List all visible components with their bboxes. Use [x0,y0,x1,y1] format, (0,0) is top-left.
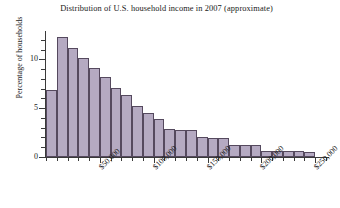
histogram-bar [78,58,89,157]
x-axis-tick-minor [46,157,47,161]
y-axis-tick-minor [41,40,46,41]
y-axis-tick-label: 10 [12,54,38,63]
y-axis-tick-label: 0 [12,152,38,161]
y-axis-tick-label: 5 [12,103,38,112]
histogram-bar [89,68,100,157]
y-axis-tick-major [39,59,46,60]
histogram-bar [100,77,111,157]
y-axis-tick-minor [41,89,46,90]
histogram-bar [251,145,262,157]
x-axis-tick-minor [175,157,176,161]
x-axis-tick-minor [197,157,198,161]
x-axis-tick-minor [304,157,305,161]
x-axis-tick-minor [68,157,69,161]
histogram-bar [197,137,208,157]
histogram-bar [68,48,79,157]
histogram-bar [46,90,57,157]
y-axis-tick-minor [41,147,46,148]
x-axis-tick-minor [121,157,122,161]
y-axis-tick-minor [41,50,46,51]
histogram-bar [294,151,305,157]
histogram-bar [175,130,186,157]
x-axis-tick-minor [251,157,252,161]
y-axis-tick-minor [41,79,46,80]
chart-title: Distribution of U.S. household income in… [0,4,333,13]
y-axis-tick-minor [41,98,46,99]
x-axis-tick-minor [89,157,90,161]
x-axis-tick-minor [78,157,79,161]
y-axis-tick-minor [41,128,46,129]
x-axis-tick-minor [229,157,230,161]
y-axis-tick-minor [41,69,46,70]
y-axis-labels: 0510 [8,0,38,208]
x-axis-tick-minor [283,157,284,161]
histogram-bar [121,95,132,157]
histogram-bar [240,145,251,157]
x-axis-tick-minor [132,157,133,161]
histogram-bar [132,106,143,157]
y-axis-tick-minor [41,137,46,138]
x-axis-tick-minor [294,157,295,161]
x-axis-tick-minor [240,157,241,161]
x-axis-tick-minor [143,157,144,161]
histogram-bar [283,151,294,157]
histogram-bar [186,130,197,157]
histogram-bar [143,113,154,157]
x-axis-tick-minor [186,157,187,161]
plot-area [46,32,326,157]
y-axis-tick-major [39,108,46,109]
y-axis-tick-major [39,157,46,158]
y-axis-tick-minor [41,118,46,119]
x-axis-tick-minor [57,157,58,161]
histogram-bar [57,37,68,157]
histogram-bar [304,152,315,157]
